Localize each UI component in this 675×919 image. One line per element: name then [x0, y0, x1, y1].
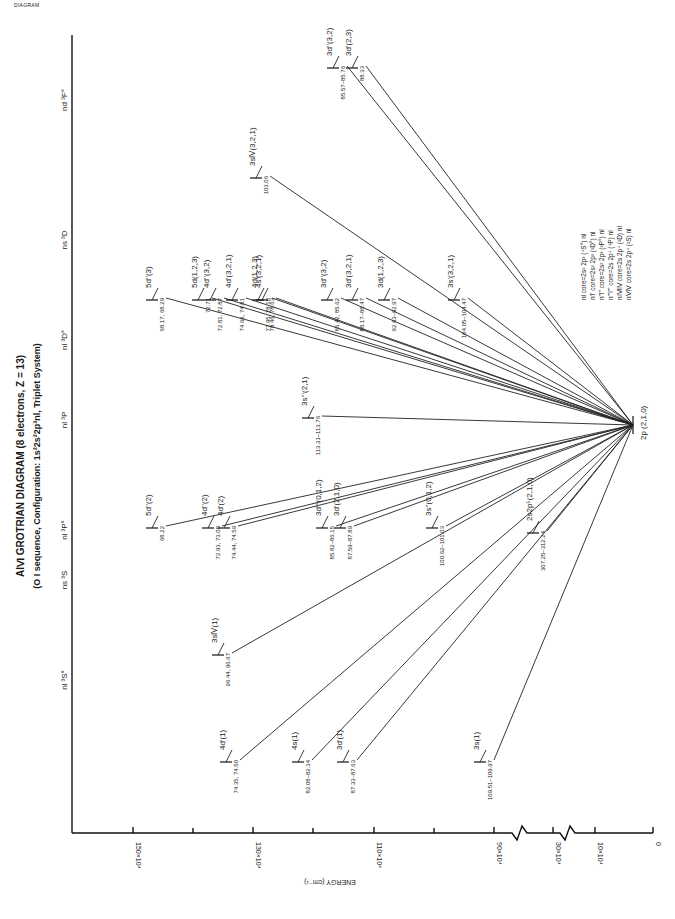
- level-label: 2s2p⁵(2,1,0): [525, 477, 534, 521]
- column-header: nl ³S°: [60, 670, 69, 690]
- level-label: 4s'(3,2,1): [254, 255, 263, 288]
- wavelength-label: 109.51–109.97: [487, 759, 493, 800]
- wavelength-label: 72.93, 73.08: [215, 525, 221, 559]
- wavelength-label: 92.63–92.97: [391, 297, 397, 331]
- legend-entry: n'l' core=2s² 2p³ (²D°) nl: [589, 231, 597, 300]
- transition-line: [232, 425, 633, 653]
- level-label: 4d'(1): [218, 729, 227, 750]
- level-leader: [384, 288, 390, 300]
- level-label: 3d''(3,2): [319, 259, 328, 288]
- legend-entry: nⅤlⅤ core=2s 2p⁴ (²S) nl: [625, 228, 633, 300]
- wavelength-label: 87.33–87.63: [350, 759, 356, 793]
- legend-entry: nl core=2s² 2p³ (⁴S°) nl: [580, 233, 588, 300]
- level-label: 5d(1,2,3): [190, 256, 199, 288]
- axis-tick-label: 130×10⁴: [255, 842, 262, 869]
- wavelength-label: 87.59–87.89: [347, 525, 353, 559]
- grotrian-diagram: 150×10⁴130×10⁴110×10⁴90×10⁴30×10⁴10×10⁴0…: [0, 0, 675, 919]
- level-label: 3d'(3,2,1): [344, 254, 353, 288]
- legend-entry: nⅣlⅣ core=2s 2p⁴ (²D) nl: [616, 226, 624, 300]
- transition-line: [322, 416, 633, 425]
- energy-axis-line: [72, 826, 653, 840]
- level-leader: [340, 516, 346, 528]
- wavelength-label: 85.57–85.76: [340, 65, 346, 99]
- wavelength-label: 113.31–113.76: [315, 415, 321, 455]
- column-header: nl ³P°: [60, 520, 69, 540]
- wavelength-label: 74.66, 74.81: [239, 297, 245, 331]
- wavelength-label: 74.35, 74.50: [233, 759, 239, 793]
- level-label: 3d(1,2,3): [376, 256, 385, 288]
- level-label: 5d''(3): [144, 266, 153, 288]
- level-leader: [308, 406, 314, 418]
- transition-line: [336, 425, 633, 526]
- level-leader: [322, 516, 328, 528]
- level-leader: [208, 516, 214, 528]
- energy-axis-label: ENERGY (cm⁻¹): [304, 878, 356, 886]
- diagram-subtitle: (O I sequence, Configuration: 1s²2s²2p³n…: [32, 343, 42, 589]
- level-leader: [152, 516, 158, 528]
- ground-level-label: 2p (2,1,0): [639, 405, 648, 440]
- transition-line: [224, 298, 633, 425]
- wavelength-label: 72.81, 72.87: [217, 297, 223, 331]
- level-leader: [333, 56, 339, 68]
- level-label: 4d'(2): [216, 495, 225, 516]
- axis-tick-label: 150×10⁴: [135, 842, 142, 869]
- level-label: 3d'(2,1,0): [332, 482, 341, 516]
- column-header: nl ³P: [60, 412, 69, 428]
- transition-line: [166, 298, 633, 425]
- wavelength-label: 96.44, 96.67: [225, 652, 231, 686]
- transition-line: [398, 298, 633, 425]
- level-leader: [533, 521, 539, 533]
- wavelength-label: 88.33: [359, 65, 365, 81]
- level-leader: [226, 750, 232, 762]
- level-label: 4s(1): [290, 731, 299, 750]
- level-leader: [298, 750, 304, 762]
- axis-tick-label: 10×10⁴: [597, 842, 604, 865]
- axis-tick-label: 30×10⁴: [555, 842, 562, 865]
- wavelength-label: 85.82–86.15: [329, 525, 335, 559]
- column-header: nd ³F°: [60, 89, 69, 111]
- level-leader: [327, 288, 333, 300]
- column-header: nl ³D°: [60, 330, 69, 350]
- level-label: 3sⅣ(3,2,1): [248, 127, 257, 166]
- level-label: 3d'''(0,1,2): [314, 479, 323, 516]
- wavelength-label: 104.05–104.47: [461, 297, 467, 338]
- wavelength-label: 85.42, 85.62: [334, 297, 340, 331]
- transition-line: [446, 425, 633, 526]
- wavelength-label: 78.46, 78.63: [269, 297, 275, 331]
- transition-line: [312, 425, 633, 760]
- legend-entry: n''l'' core=2s² 2p³ (²P°) nl: [598, 229, 606, 300]
- level-label: 4d''(3,2): [202, 259, 211, 288]
- legend-entry: n'''l''' core=2s 2p⁴ (⁴P) nl: [607, 230, 615, 300]
- wavelength-label: 68.22: [159, 525, 165, 541]
- axis-tick-label: 90×10⁴: [496, 842, 503, 865]
- wavelength-label: 88.17–88.47: [359, 297, 365, 331]
- level-label: 3d''(3,2): [325, 27, 334, 56]
- level-leader: [218, 643, 224, 655]
- column-header: ns ³S: [60, 571, 69, 590]
- axis-tick-label: 110×10⁴: [376, 842, 383, 868]
- wavelength-label: 100.62–101.03: [439, 525, 445, 566]
- axis-tick-label: 0: [655, 842, 662, 846]
- level-leader: [480, 750, 486, 762]
- level-leader: [256, 166, 262, 178]
- wavelength-label: 307.25–312.24: [540, 530, 546, 571]
- level-label: 3s'''(2,1): [300, 376, 309, 406]
- transition-line: [276, 298, 633, 425]
- level-label: 3s''(0,1,2): [424, 481, 433, 516]
- wavelength-label: 103.06: [263, 175, 269, 194]
- level-label: 3s(1): [472, 731, 481, 750]
- level-leader: [232, 288, 238, 300]
- level-leader: [352, 56, 358, 68]
- transition-line: [468, 298, 633, 425]
- transition-line: [341, 298, 633, 425]
- wavelength-label: 74.44, 74.59: [231, 525, 237, 559]
- level-label: 5d''(2): [144, 494, 153, 516]
- transition-line: [212, 298, 633, 425]
- transition-line: [366, 298, 633, 425]
- transition-line: [494, 425, 633, 760]
- level-leader: [432, 516, 438, 528]
- level-leader: [198, 288, 204, 300]
- level-label: 3d'(2,3): [344, 29, 353, 56]
- level-label: 3d'(1): [335, 729, 344, 750]
- level-leader: [454, 288, 460, 300]
